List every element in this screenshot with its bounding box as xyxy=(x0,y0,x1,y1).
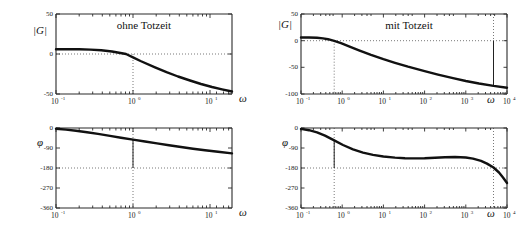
svg-text:0: 0 xyxy=(138,210,141,215)
ytick-label-bottom-right-3: -270 xyxy=(285,184,298,192)
phase-curve-bottom-left xyxy=(56,129,232,154)
svg-text:0: 0 xyxy=(138,96,141,101)
ytick-label-bottom-right-1: -90 xyxy=(289,144,299,152)
svg-text:10: 10 xyxy=(51,211,59,220)
ytick-label-top-right-0: 50 xyxy=(291,10,299,18)
plot-title-top-right: mit Totzeit xyxy=(385,19,433,31)
xtick-label-top-left-0: 10 -1 xyxy=(51,96,66,106)
grid-top-left xyxy=(56,54,232,94)
phase-curve-bottom-right xyxy=(301,129,507,183)
plot-title-top-left: ohne Totzeit xyxy=(117,19,171,31)
svg-text:1: 1 xyxy=(215,96,218,101)
ytick-label-bottom-right-0: 0 xyxy=(295,124,299,132)
svg-text:3: 3 xyxy=(471,96,474,101)
xlabel-bottom-right: ω xyxy=(487,207,495,219)
svg-text:10: 10 xyxy=(420,97,428,106)
magnitude-curve-top-right xyxy=(301,38,507,88)
ytick-label-top-right-2: -50 xyxy=(289,63,299,71)
xtick-label-top-right-2: 10 1 xyxy=(378,96,391,106)
svg-text:2: 2 xyxy=(430,96,433,101)
svg-text:10: 10 xyxy=(378,97,386,106)
xtick-label-top-right-5: 10 4 xyxy=(503,96,516,106)
xtick-label-bottom-left-0: 10 -1 xyxy=(51,210,66,220)
svg-text:10: 10 xyxy=(420,211,428,220)
xlabel-bottom-left: ω xyxy=(239,206,247,218)
svg-text:0: 0 xyxy=(347,96,350,101)
xtick-label-top-left-2: 10 1 xyxy=(205,96,218,106)
svg-text:10: 10 xyxy=(461,211,469,220)
xtick-label-bottom-right-2: 10 1 xyxy=(378,210,391,220)
ylabel-top-right: |G| xyxy=(278,18,292,30)
ytick-label-top-left-1: 0 xyxy=(50,50,54,58)
magnitude-curve-top-left xyxy=(56,49,232,91)
xtick-label-top-right-1: 10 0 xyxy=(337,96,350,106)
svg-text:10: 10 xyxy=(337,211,345,220)
svg-text:0: 0 xyxy=(347,210,350,215)
svg-text:10: 10 xyxy=(205,97,213,106)
xtick-label-bottom-right-0: 10 -1 xyxy=(296,210,311,220)
bode-diagram-figure: ohne Totzeit |G| 50 0 -50 10 -1 10 0 10 … xyxy=(0,0,527,234)
xtick-label-bottom-right-5: 10 4 xyxy=(503,210,516,220)
xtick-label-bottom-right-3: 10 2 xyxy=(420,210,433,220)
panel-top-left-magnitude: ohne Totzeit |G| 50 0 -50 10 -1 10 0 10 … xyxy=(0,0,264,112)
panel-bottom-right-phase: φ 0 -90 -180 -270 -360 10 -1 10 0 10 1 1… xyxy=(263,112,527,234)
svg-text:1: 1 xyxy=(388,210,391,215)
svg-text:10: 10 xyxy=(337,97,345,106)
ytick-label-bottom-left-0: 0 xyxy=(50,124,54,132)
svg-text:1: 1 xyxy=(215,210,218,215)
svg-text:10: 10 xyxy=(51,97,59,106)
xlabel-top-right: ω xyxy=(487,93,495,105)
xtick-label-bottom-right-4: 10 3 xyxy=(461,210,474,220)
xtick-label-bottom-left-2: 10 1 xyxy=(205,210,218,220)
svg-text:10: 10 xyxy=(205,211,213,220)
ytick-label-bottom-left-2: -180 xyxy=(40,164,53,172)
xlabel-top-left: ω xyxy=(239,92,247,104)
xtick-label-bottom-left-1: 10 0 xyxy=(128,210,141,220)
panel-bottom-left-phase: φ 0 -90 -180 -270 -360 10 -1 10 0 10 1 ω xyxy=(0,112,264,234)
xtick-label-top-right-4: 10 3 xyxy=(461,96,474,106)
panel-top-right-magnitude: mit Totzeit |G| 50 0 -50 -100 10 -1 10 0… xyxy=(263,0,527,112)
xtick-label-top-right-3: 10 2 xyxy=(420,96,433,106)
xtick-label-top-right-0: 10 -1 xyxy=(296,96,311,106)
ytick-label-top-left-0: 50 xyxy=(46,10,54,18)
ylabel-bottom-left: φ xyxy=(37,136,43,148)
svg-text:-1: -1 xyxy=(61,210,66,215)
svg-text:2: 2 xyxy=(430,210,433,215)
ytick-label-top-right-1: 0 xyxy=(295,37,299,45)
svg-text:-1: -1 xyxy=(306,96,311,101)
svg-text:4: 4 xyxy=(513,96,516,101)
svg-text:10: 10 xyxy=(128,211,136,220)
ytick-label-bottom-left-1: -90 xyxy=(44,144,54,152)
grid-bottom-left xyxy=(56,128,232,208)
svg-text:3: 3 xyxy=(471,210,474,215)
svg-text:10: 10 xyxy=(128,97,136,106)
svg-text:-1: -1 xyxy=(61,96,66,101)
svg-text:10: 10 xyxy=(503,211,511,220)
ylabel-bottom-right: φ xyxy=(282,136,288,148)
svg-text:10: 10 xyxy=(503,97,511,106)
svg-text:10: 10 xyxy=(461,97,469,106)
svg-text:10: 10 xyxy=(296,211,304,220)
svg-text:1: 1 xyxy=(388,96,391,101)
ytick-label-bottom-right-2: -180 xyxy=(285,164,298,172)
xtick-label-bottom-right-1: 10 0 xyxy=(337,210,350,220)
svg-text:4: 4 xyxy=(513,210,516,215)
svg-text:-1: -1 xyxy=(306,210,311,215)
ytick-label-bottom-left-3: -270 xyxy=(40,184,53,192)
svg-text:10: 10 xyxy=(296,97,304,106)
ylabel-top-left: |G| xyxy=(33,24,47,36)
svg-text:10: 10 xyxy=(378,211,386,220)
xtick-label-top-left-1: 10 0 xyxy=(128,96,141,106)
